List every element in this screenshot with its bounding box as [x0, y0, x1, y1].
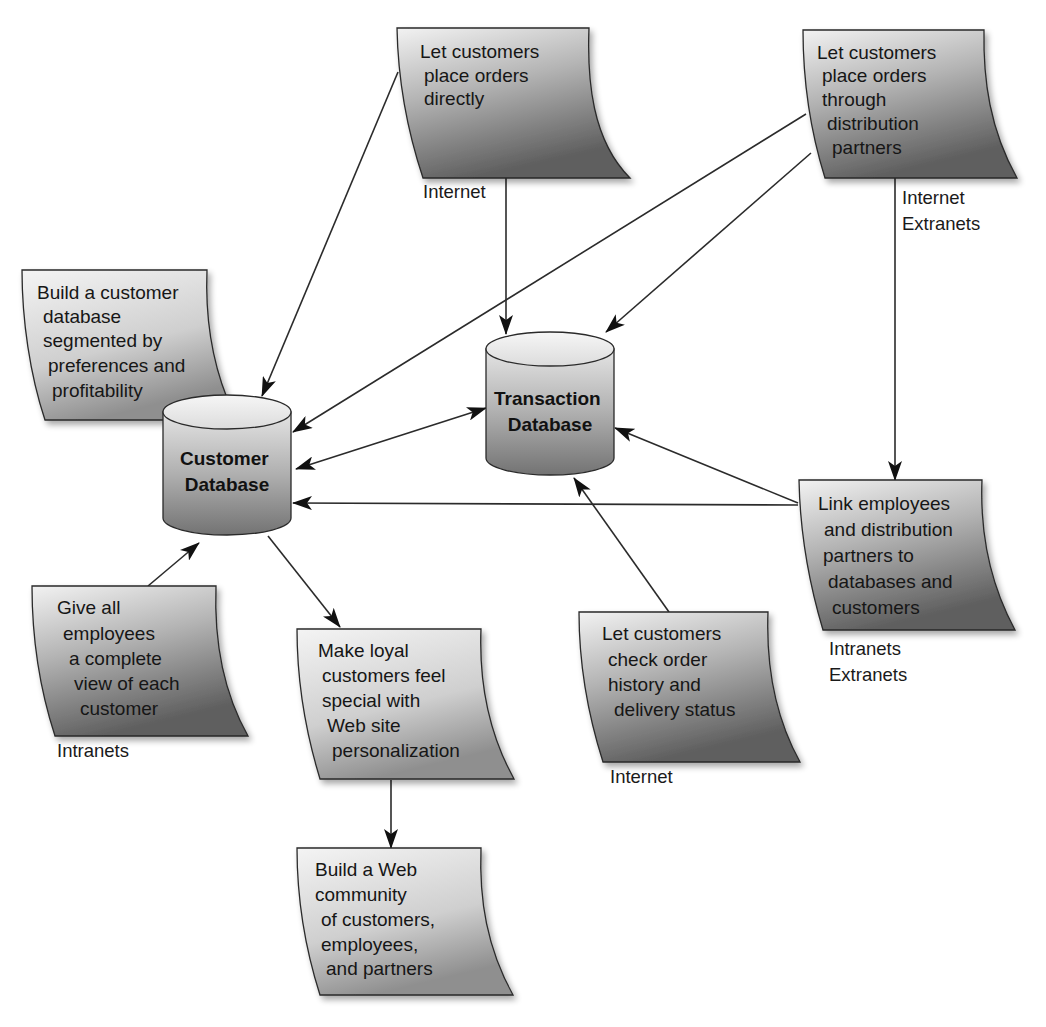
svg-text:Internet: Internet [610, 766, 673, 787]
edge-link-employees-to-transaction-db [615, 428, 798, 503]
note-order-history: Let customers check order history and de… [579, 612, 800, 787]
note-text-line: view of each [74, 673, 180, 694]
note-text-line: partners [832, 137, 902, 158]
note-web-community: Build a Web community of customers, empl… [297, 848, 513, 995]
network-label: Extranets [902, 213, 980, 234]
note-text-line: distribution [827, 113, 919, 134]
note-text-line: place orders [822, 65, 927, 86]
note-text-line: Let customers [602, 623, 721, 644]
note-text-line: preferences and [48, 355, 185, 376]
edge-customer-db-transaction-db [296, 408, 486, 469]
note-place-orders-directly: Let customers place orders directly Inte… [397, 28, 630, 202]
cylinder-top [486, 332, 614, 366]
network-label: Internet [902, 187, 965, 208]
note-text-line: delivery status [614, 699, 735, 720]
crm-diagram: Let customers place orders directly Inte… [0, 0, 1046, 1027]
customer-database-cylinder: Customer Database [163, 395, 291, 535]
edge-give-employees-to-customer-db [148, 543, 199, 586]
note-text-line: through [822, 89, 886, 110]
note-text-line: employees [63, 623, 155, 644]
note-text-line: segmented by [43, 330, 163, 351]
db-label-line: Transaction [494, 388, 601, 409]
svg-text:Build a Web community: Build a Web community of customers, empl… [315, 859, 440, 979]
network-label: Intranets [829, 638, 901, 659]
note-text-line: check order [608, 649, 708, 670]
db-label-line: Database [508, 414, 593, 435]
db-label-line: Database [185, 474, 270, 495]
edge-customer-db-to-loyal-customers [268, 536, 340, 627]
transaction-database-cylinder: Transaction Database [486, 332, 614, 475]
note-text-line: Give all [57, 597, 120, 618]
note-text-line: and partners [326, 958, 433, 979]
edge-order-history-to-transaction-db [574, 478, 669, 612]
note-text-line: customer [80, 698, 159, 719]
svg-text:Internet Extranets: Internet Extranets [902, 187, 980, 234]
note-text-line: profitability [52, 380, 143, 401]
note-text-line: special with [322, 690, 420, 711]
network-label: Internet [610, 766, 673, 787]
note-text-line: Build a Web [315, 859, 417, 880]
note-link-employees: Link employees and distribution partners… [799, 480, 1015, 685]
note-text-line: Let customers [817, 42, 936, 63]
note-text-line: personalization [332, 740, 460, 761]
note-place-orders-partners: Let customers place orders through distr… [803, 30, 1017, 234]
note-text-line: history and [608, 674, 701, 695]
note-text-line: database [43, 306, 121, 327]
edge-place-partners-to-transaction-db [606, 153, 811, 332]
svg-text:Intranets Extranets: Intranets Extranets [829, 638, 907, 685]
note-text-line: Let customers [420, 41, 539, 62]
note-text-line: of customers, [321, 909, 435, 930]
note-text-line: community [315, 884, 407, 905]
note-text-line: partners to [823, 545, 914, 566]
note-text-line: place orders [424, 65, 529, 86]
note-text-line: directly [424, 88, 485, 109]
note-text-line: Build a customer [37, 282, 179, 303]
note-text-line: databases and [828, 571, 953, 592]
note-text-line: and distribution [824, 519, 953, 540]
svg-text:Intranets: Intranets [57, 740, 129, 761]
note-text-line: employees, [321, 934, 418, 955]
network-label: Internet [423, 181, 486, 202]
edge-link-employees-to-customer-db [293, 503, 798, 505]
cylinder-top [163, 395, 291, 429]
network-label: Extranets [829, 664, 907, 685]
note-text-line: customers feel [322, 665, 446, 686]
network-label: Intranets [57, 740, 129, 761]
note-loyal-customers: Make loyal customers feel special with W… [297, 629, 514, 779]
edge-place-direct-to-customer-db [262, 72, 398, 396]
note-text-line: Web site [327, 715, 401, 736]
note-give-employees-view: Give all employees a complete view of ea… [32, 586, 248, 761]
note-text-line: a complete [69, 648, 162, 669]
note-text-line: Make loyal [318, 640, 409, 661]
db-label-line: Customer [180, 448, 269, 469]
svg-text:Internet: Internet [423, 181, 486, 202]
note-text-line: Link employees [818, 493, 950, 514]
note-text-line: customers [832, 597, 920, 618]
